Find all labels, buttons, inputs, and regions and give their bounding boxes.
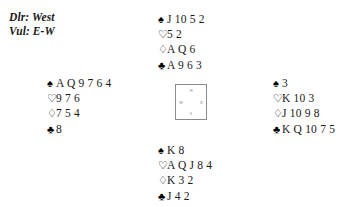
north-spade-line: ♠J 10 5 2 — [158, 12, 205, 27]
diamond-icon: ♢ — [158, 42, 167, 57]
diamond-icon: ♢ — [47, 106, 56, 121]
spade-icon: ♠ — [158, 12, 167, 27]
east-spades: 3 — [282, 77, 288, 89]
hand-east: ♠3 ♡K 10 3 ♢J 10 9 8 ♣K Q 10 7 5 — [273, 76, 335, 137]
compass-south-label: S — [190, 111, 192, 116]
south-spades: K 8 — [167, 144, 185, 156]
heart-icon: ♡ — [273, 91, 282, 106]
south-hearts: A Q J 8 4 — [167, 159, 212, 171]
hand-north: ♠J 10 5 2 ♡5 2 ♢A Q 6 ♣A 9 6 3 — [158, 12, 205, 73]
club-icon: ♣ — [158, 189, 167, 204]
west-diamonds: 7 5 4 — [56, 107, 80, 119]
vulnerability-label: Vul: E-W — [9, 24, 55, 38]
diamond-icon: ♢ — [158, 173, 167, 188]
east-club-line: ♣K Q 10 7 5 — [273, 122, 335, 137]
east-heart-line: ♡K 10 3 — [273, 91, 335, 106]
heart-icon: ♡ — [158, 158, 167, 173]
spade-icon: ♠ — [47, 76, 56, 91]
west-heart-line: ♡9 7 6 — [47, 91, 112, 106]
club-icon: ♣ — [47, 122, 56, 137]
north-hearts: 5 2 — [167, 28, 182, 40]
compass-box: N W E S — [175, 84, 207, 120]
north-diamonds: A Q 6 — [167, 43, 195, 55]
west-spade-line: ♠A Q 9 7 6 4 — [47, 76, 112, 91]
compass-north-label: N — [189, 88, 192, 93]
east-clubs: K Q 10 7 5 — [282, 123, 335, 135]
south-diamonds: K 3 2 — [167, 174, 194, 186]
west-diamond-line: ♢7 5 4 — [47, 106, 112, 121]
north-clubs: A 9 6 3 — [167, 59, 202, 71]
spade-icon: ♠ — [273, 76, 282, 91]
club-icon: ♣ — [158, 58, 167, 73]
heart-icon: ♡ — [47, 91, 56, 106]
north-diamond-line: ♢A Q 6 — [158, 42, 205, 57]
east-spade-line: ♠3 — [273, 76, 335, 91]
compass-east-label: E — [200, 100, 203, 105]
hand-west: ♠A Q 9 7 6 4 ♡9 7 6 ♢7 5 4 ♣8 — [47, 76, 112, 137]
south-clubs: J 4 2 — [167, 190, 190, 202]
deal-info: Dlr: West Vul: E-W — [9, 10, 55, 38]
south-spade-line: ♠K 8 — [158, 143, 212, 158]
north-heart-line: ♡5 2 — [158, 27, 205, 42]
east-diamond-line: ♢J 10 9 8 — [273, 106, 335, 121]
east-diamonds: J 10 9 8 — [282, 107, 320, 119]
hand-south: ♠K 8 ♡A Q J 8 4 ♢K 3 2 ♣J 4 2 — [158, 143, 212, 204]
west-spades: A Q 9 7 6 4 — [56, 77, 112, 89]
diamond-icon: ♢ — [273, 106, 282, 121]
west-clubs: 8 — [56, 123, 62, 135]
south-club-line: ♣J 4 2 — [158, 189, 212, 204]
south-diamond-line: ♢K 3 2 — [158, 173, 212, 188]
north-spades: J 10 5 2 — [167, 13, 205, 25]
compass-west-label: W — [179, 100, 183, 105]
east-hearts: K 10 3 — [282, 92, 315, 104]
spade-icon: ♠ — [158, 143, 167, 158]
club-icon: ♣ — [273, 122, 282, 137]
south-heart-line: ♡A Q J 8 4 — [158, 158, 212, 173]
west-hearts: 9 7 6 — [56, 92, 80, 104]
dealer-label: Dlr: West — [9, 10, 55, 24]
heart-icon: ♡ — [158, 27, 167, 42]
bridge-deal-diagram: Dlr: West Vul: E-W ♠J 10 5 2 ♡5 2 ♢A Q 6… — [0, 0, 357, 207]
west-club-line: ♣8 — [47, 122, 112, 137]
north-club-line: ♣A 9 6 3 — [158, 58, 205, 73]
